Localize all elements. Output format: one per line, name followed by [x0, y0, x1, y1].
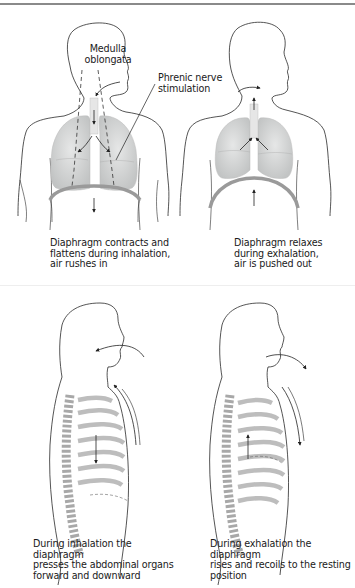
- panel-front-inhalation: Medulla oblongata Phrenic nerve stimulat…: [0, 0, 178, 285]
- panel-side-inhalation: During inhalation the diaphragm presses …: [0, 285, 178, 588]
- left-lung: [51, 116, 91, 190]
- medulla-label: Medulla oblongata: [78, 44, 138, 65]
- caption-side-inhalation: During inhalation the diaphragm presses …: [33, 539, 183, 581]
- ribs: [78, 398, 124, 485]
- panel-front-exhalation: Diaphragm relaxes during exhalation, air…: [178, 0, 355, 285]
- panel-side-exhalation: During exhalation the diaphragm rises an…: [178, 285, 355, 588]
- ribs: [238, 400, 284, 503]
- caption-side-exhalation: During exhalation the diaphragm rises an…: [210, 539, 355, 581]
- caption-front-exhalation: Diaphragm relaxes during exhalation, air…: [234, 238, 354, 270]
- right-lung: [99, 116, 137, 190]
- caption-front-inhalation: Diaphragm contracts and flattens during …: [50, 238, 180, 270]
